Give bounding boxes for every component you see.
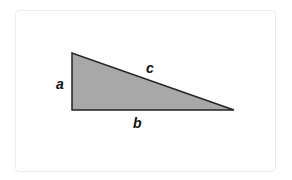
side-c-label: c: [146, 61, 154, 75]
side-a-label: a: [56, 77, 64, 91]
right-triangle-figure: [0, 0, 292, 180]
side-b-label: b: [133, 116, 142, 130]
